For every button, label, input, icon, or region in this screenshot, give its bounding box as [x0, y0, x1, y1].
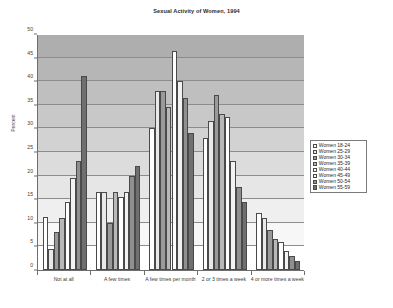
legend-item-label: Women 55-59: [319, 185, 350, 190]
y-axis-tick-label: 10: [27, 215, 33, 221]
x-axis-tick-mark: [197, 271, 198, 275]
x-axis-tick-mark: [144, 271, 145, 275]
legend-swatch-icon: [313, 150, 317, 154]
x-axis-tick-label: Not at all: [54, 276, 74, 282]
legend-swatch-icon: [313, 168, 317, 172]
x-axis-tick-mark: [251, 271, 252, 275]
x-axis-tick-label: 2 or 3 times a week: [202, 276, 246, 282]
y-axis-tick-label: 25: [27, 144, 33, 150]
y-axis-tick-label: 50: [27, 26, 33, 32]
y-axis-tick-label: 5: [30, 238, 33, 244]
bar: [135, 166, 141, 270]
y-axis-tick-label: 15: [27, 191, 33, 197]
legend-swatch-icon: [313, 156, 317, 160]
y-axis-tick-label: 35: [27, 97, 33, 103]
legend-swatch-icon: [313, 185, 317, 189]
bar: [188, 133, 194, 270]
bar: [242, 202, 248, 270]
y-axis-tick-label: 40: [27, 73, 33, 79]
x-axis-tick-label: 4 or more times a week: [251, 276, 304, 282]
chart-title: Sexual Activity of Women, 1994: [0, 8, 393, 14]
legend-swatch-icon: [313, 144, 317, 148]
plot-area: [37, 35, 304, 271]
x-axis-tick-label: A few times: [104, 276, 130, 282]
x-axis: Not at allA few timesA few times per mon…: [37, 276, 304, 292]
legend-swatch-icon: [313, 162, 317, 166]
bar: [295, 261, 301, 270]
legend-item[interactable]: Women 55-59: [313, 185, 364, 191]
legend-swatch-icon: [313, 180, 317, 184]
x-axis-tick-mark: [90, 271, 91, 275]
bar: [81, 76, 87, 270]
y-axis-tick-label: 20: [27, 168, 33, 174]
legend: Women 18-24Women 25-29Women 30-34Women 3…: [310, 140, 367, 193]
chart-container: Sexual Activity of Women, 1994 Percent 0…: [0, 0, 393, 308]
y-axis-tick-label: 45: [27, 50, 33, 56]
x-axis-tick-mark: [304, 271, 305, 275]
legend-swatch-icon: [313, 174, 317, 178]
y-axis-tick-label: 0: [30, 262, 33, 268]
y-axis: 05101520253035404550: [0, 35, 37, 271]
x-axis-tick-label: A few times per month: [145, 276, 195, 282]
x-axis-tick-mark: [37, 271, 38, 275]
y-axis-tick-label: 30: [27, 120, 33, 126]
